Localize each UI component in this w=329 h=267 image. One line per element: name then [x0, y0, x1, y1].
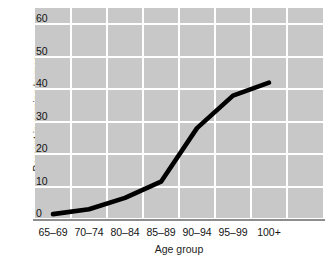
x-axis-tick-labels: 65–6970–7480–8485–8990–9495–99100+	[35, 226, 323, 240]
y-axis-tick-label: 10	[36, 176, 58, 187]
y-axis-tick-label: 20	[36, 143, 58, 154]
x-axis-line	[33, 219, 325, 221]
y-axis-tick-label: 50	[36, 46, 58, 57]
y-axis-tick-label: 0	[36, 208, 58, 219]
y-axis-tick-label: 60	[36, 13, 58, 24]
y-axis-tick-label: 30	[36, 111, 58, 122]
x-axis-tick-label: 100+	[246, 226, 292, 238]
plot-area	[35, 8, 323, 219]
x-axis-title: Age group	[35, 243, 323, 255]
y-axis-tick-label: 40	[36, 78, 58, 89]
nursing-home-percent-line-chart: Percent in nursing homes 0102030405060 6…	[0, 0, 329, 267]
data-series-line	[35, 8, 323, 219]
